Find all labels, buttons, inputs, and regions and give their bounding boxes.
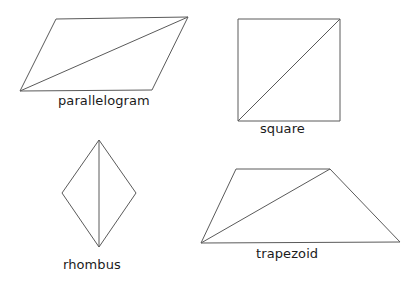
label-rhombus: rhombus [63, 258, 121, 271]
shape-rhombus [62, 140, 136, 247]
label-trapezoid: trapezoid [256, 247, 318, 260]
shape-square [238, 19, 340, 121]
label-parallelogram: parallelogram [58, 94, 150, 107]
trapezoid-diagonal [201, 169, 330, 243]
shapes-svg [0, 0, 420, 291]
square-diagonal [238, 19, 340, 121]
shape-trapezoid [201, 169, 400, 243]
parallelogram-diagonal [20, 17, 188, 91]
shape-parallelogram [20, 17, 188, 91]
trapezoid-outline [201, 169, 400, 243]
label-square: square [260, 122, 305, 135]
figure-canvas: parallelogram square rhombus trapezoid [0, 0, 420, 291]
